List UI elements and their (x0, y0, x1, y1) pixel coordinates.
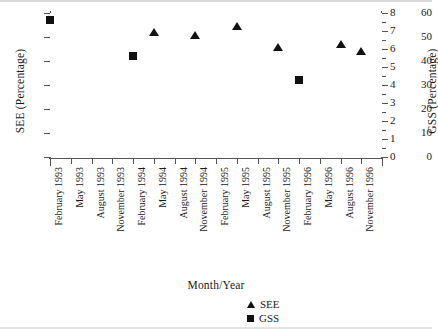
y-axis-right-tick (382, 139, 388, 140)
y-axis-right-tick-label: 4 (390, 79, 404, 90)
data-point-gss (295, 76, 303, 84)
x-axis-tick (71, 159, 72, 164)
x-axis-tick (175, 159, 176, 164)
x-axis-tick (278, 159, 279, 164)
y-axis-left-title: SEE (Percentage) (14, 31, 26, 151)
x-axis-tick (133, 159, 134, 164)
y-axis-right-tick-label: 8 (390, 7, 404, 18)
x-axis-tick (216, 159, 217, 164)
y-axis-right-tick (382, 103, 388, 104)
x-axis-tick-label: February 1994 (137, 167, 147, 226)
data-point-see (356, 47, 366, 55)
y-axis-right-tick-label: 0 (390, 151, 404, 162)
y-axis-right-minor-tick (382, 130, 386, 131)
x-axis-tick (299, 159, 300, 164)
data-point-see (232, 22, 242, 30)
y-axis-right-tick-label: 7 (390, 25, 404, 36)
y-axis-right-minor-tick (382, 112, 386, 113)
x-axis-tick-label: May 1996 (324, 167, 334, 208)
x-axis-tick-label: February 1993 (54, 167, 64, 226)
x-axis-tick-label: May 1994 (158, 167, 168, 208)
y-axis-right-minor-tick (382, 76, 386, 77)
x-axis-tick (50, 159, 51, 166)
x-axis-title: Month/Year (0, 279, 432, 291)
chart-legend: SEE GSS (247, 297, 280, 325)
y-axis-right-tick (382, 85, 388, 86)
data-point-gss (129, 52, 137, 60)
y-axis-right-minor-tick (382, 22, 386, 23)
y-axis-left-tick (44, 13, 50, 14)
x-axis-tick (154, 159, 155, 164)
y-axis-left-tick (44, 157, 50, 158)
plot-area (50, 13, 382, 157)
y-axis-right-tick-label: 1 (390, 133, 404, 144)
y-axis-right-title: GSS (Percentage) (426, 31, 438, 151)
x-axis-tick (258, 159, 259, 164)
x-axis-tick-label: November 1995 (282, 167, 292, 232)
y-axis-right-tick (382, 121, 388, 122)
data-point-see (190, 31, 200, 39)
y-axis-right-tick-label: 3 (390, 97, 404, 108)
scan-edge-top (0, 0, 432, 2)
data-point-see (336, 40, 346, 48)
y-axis-right-tick (382, 157, 388, 158)
x-axis-tick (92, 159, 93, 164)
legend-label-see: SEE (260, 297, 280, 311)
x-axis-tick-label: November 1994 (199, 167, 209, 232)
x-axis-tick-label: May 1993 (75, 167, 85, 208)
data-point-see (273, 43, 283, 51)
x-axis-tick-label: August 1994 (179, 167, 189, 218)
legend-item-see: SEE (247, 297, 280, 311)
x-axis-tick-label: August 1995 (262, 167, 272, 218)
x-axis-tick-label: August 1996 (345, 167, 355, 218)
y-axis-right-tick (382, 67, 388, 68)
y-axis-right-tick-label: 2 (390, 115, 404, 126)
y-axis-left-tick (44, 133, 50, 134)
x-axis-tick (237, 159, 238, 164)
y-axis-right-tick (382, 31, 388, 32)
x-axis-tick (195, 159, 196, 164)
y-axis-left-tick (44, 109, 50, 110)
y-axis-left-tick (44, 37, 50, 38)
y-axis-left-tick (44, 85, 50, 86)
x-axis-tick-label: May 1995 (241, 167, 251, 208)
x-axis-tick-label: February 1995 (220, 167, 230, 226)
y-axis-right-tick (382, 13, 388, 14)
x-axis-end-tick (382, 159, 383, 166)
y-axis-right-tick-label: 5 (390, 61, 404, 72)
y-axis-right-tick (382, 49, 388, 50)
data-point-see (149, 28, 159, 36)
x-axis-tick (341, 159, 342, 164)
data-point-gss (46, 16, 54, 24)
x-axis-tick (361, 159, 362, 164)
x-axis-tick (112, 159, 113, 164)
legend-item-gss: GSS (247, 311, 280, 325)
x-axis-tick-label: February 1996 (303, 167, 313, 226)
y-axis-right-minor-tick (382, 58, 386, 59)
x-axis-tick-label: November 1996 (365, 167, 375, 232)
triangle-marker-icon (247, 301, 255, 308)
y-axis-right-tick-label: 6 (390, 43, 404, 54)
y-axis-left-tick (44, 61, 50, 62)
y-axis-right-minor-tick (382, 94, 386, 95)
y-axis-right-minor-tick (382, 40, 386, 41)
x-axis-tick-label: November 1993 (116, 167, 126, 232)
square-marker-icon (247, 315, 254, 322)
x-axis-tick (320, 159, 321, 164)
y-axis-right-minor-tick (382, 148, 386, 149)
legend-label-gss: GSS (259, 311, 279, 325)
x-axis-tick-label: August 1993 (96, 167, 106, 218)
